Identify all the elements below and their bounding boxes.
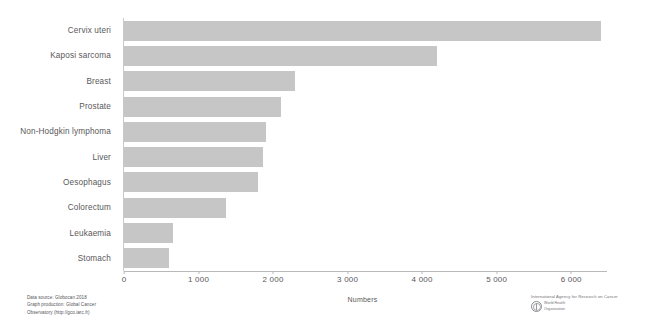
agency-name: International Agency for Research on Can… xyxy=(531,294,637,299)
y-axis-label: Colorectum xyxy=(0,195,118,220)
who-logo-text: World HealthOrganization xyxy=(544,301,565,311)
bar-row xyxy=(124,195,601,220)
bar xyxy=(124,71,295,91)
x-axis-tick: 5 000 xyxy=(486,271,507,284)
tick-mark xyxy=(422,271,423,274)
x-axis-tick: 2 000 xyxy=(263,271,284,284)
bar xyxy=(124,46,437,66)
tick-mark xyxy=(273,271,274,274)
y-axis-label: Liver xyxy=(0,144,118,169)
bar xyxy=(124,97,281,117)
bar xyxy=(124,122,266,142)
tick-mark xyxy=(198,271,199,274)
y-axis-label: Oesophagus xyxy=(0,170,118,195)
bar-chart: Cervix uteriKaposi sarcomaBreastProstate… xyxy=(0,0,645,332)
x-axis-tick: 3 000 xyxy=(337,271,358,284)
y-axis-label: Non-Hodgkin lymphoma xyxy=(0,119,118,144)
bar xyxy=(124,147,263,167)
bar-row xyxy=(124,246,601,271)
tick-label: 2 000 xyxy=(263,275,284,284)
y-axis-category-labels: Cervix uteriKaposi sarcomaBreastProstate… xyxy=(0,18,118,271)
y-axis-label: Breast xyxy=(0,69,118,94)
y-axis-label: Cervix uteri xyxy=(0,18,118,43)
tick-mark xyxy=(496,271,497,274)
source-line: Data source: Globocan 2018 xyxy=(27,294,96,301)
bar xyxy=(124,21,601,41)
tick-label: 3 000 xyxy=(337,275,358,284)
who-logo-line: Organization xyxy=(544,307,565,312)
bar-row xyxy=(124,144,601,169)
tick-mark xyxy=(124,271,125,274)
bar-row xyxy=(124,119,601,144)
tick-label: 0 xyxy=(122,275,127,284)
bar xyxy=(124,198,226,218)
who-logo: World HealthOrganization xyxy=(531,301,637,312)
bar-row xyxy=(124,69,601,94)
y-axis-label: Stomach xyxy=(0,246,118,271)
bar-row xyxy=(124,94,601,119)
bars-container xyxy=(124,18,601,271)
tick-mark xyxy=(347,271,348,274)
agency-credit: International Agency for Research on Can… xyxy=(517,294,637,312)
tick-mark xyxy=(571,271,572,274)
y-axis-label: Leukaemia xyxy=(0,220,118,245)
bar-row xyxy=(124,43,601,68)
source-line: Graph production: Global Cancer xyxy=(27,301,96,308)
x-axis-ticks: 01 0002 0003 0004 0005 0006 000 xyxy=(124,271,601,289)
y-axis-label: Kaposi sarcoma xyxy=(0,43,118,68)
bar-row xyxy=(124,170,601,195)
bar-row xyxy=(124,18,601,43)
who-logo-line: World Health xyxy=(544,301,565,306)
tick-label: 6 000 xyxy=(561,275,582,284)
tick-label: 5 000 xyxy=(486,275,507,284)
x-axis-tick: 6 000 xyxy=(561,271,582,284)
plot-area: Cervix uteriKaposi sarcomaBreastProstate… xyxy=(0,0,645,290)
bar xyxy=(124,248,169,268)
x-axis-tick: 0 xyxy=(122,271,127,284)
who-emblem-icon xyxy=(531,301,542,312)
bar xyxy=(124,223,173,243)
bar xyxy=(124,172,258,192)
bar-row xyxy=(124,220,601,245)
x-axis-tick: 4 000 xyxy=(412,271,433,284)
x-axis-tick: 1 000 xyxy=(188,271,209,284)
source-line: Observatory (http://gco.iarc.fr) xyxy=(27,309,96,316)
tick-label: 1 000 xyxy=(188,275,209,284)
y-axis-line xyxy=(123,18,124,271)
y-axis-label: Prostate xyxy=(0,94,118,119)
data-source-note: Data source: Globocan 2018Graph producti… xyxy=(27,294,96,316)
tick-label: 4 000 xyxy=(412,275,433,284)
